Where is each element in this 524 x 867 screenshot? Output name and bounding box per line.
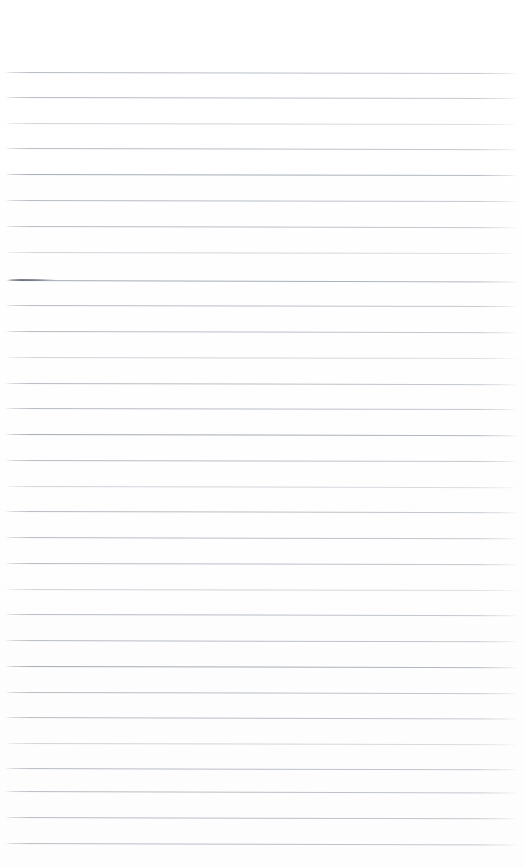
rule-line-21 <box>5 589 518 591</box>
rule-line-18 <box>5 511 518 513</box>
rule-line-24 <box>5 666 518 668</box>
rule-line-1 <box>5 72 518 74</box>
rule-line-3 <box>5 123 518 125</box>
rule-line-29 <box>5 791 518 793</box>
rule-line-23 <box>5 640 518 642</box>
rule-line-6 <box>5 200 518 202</box>
rule-line-11 <box>5 331 518 333</box>
rule-line-25 <box>5 692 518 694</box>
rule-line-14 <box>5 408 518 410</box>
rule-line-22 <box>5 614 518 616</box>
rule-line-8 <box>5 252 518 254</box>
rule-line-4 <box>5 148 518 150</box>
ruled-lines-layer <box>0 0 524 867</box>
rule-line-26 <box>5 717 518 719</box>
scanned-page <box>0 0 524 867</box>
rule-line-16 <box>5 460 518 462</box>
rule-line-17 <box>5 486 518 488</box>
rule-line-12 <box>5 357 518 359</box>
rule-line-19 <box>5 537 518 539</box>
rule-line-5 <box>5 174 518 176</box>
rule-line-7 <box>5 226 518 228</box>
pen-stroke-mark <box>8 279 56 281</box>
rule-line-31 <box>5 843 518 845</box>
rule-line-2 <box>5 97 518 99</box>
rule-line-20 <box>5 563 518 565</box>
rule-line-27 <box>5 743 518 745</box>
rule-line-30 <box>5 817 518 819</box>
rule-line-10 <box>5 305 518 307</box>
rule-line-28 <box>5 768 518 770</box>
rule-line-15 <box>5 434 518 436</box>
rule-line-13 <box>5 383 518 385</box>
rule-line-9 <box>5 280 518 282</box>
